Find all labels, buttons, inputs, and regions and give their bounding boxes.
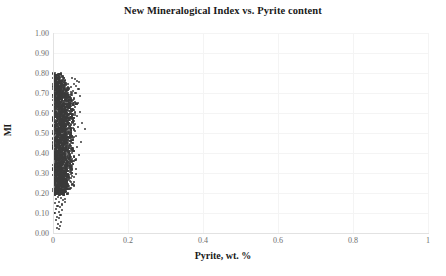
scatter-point xyxy=(70,156,72,158)
scatter-point xyxy=(58,194,60,196)
x-tick-label: 1 xyxy=(408,236,446,245)
scatter-point xyxy=(75,135,77,137)
scatter-point xyxy=(64,170,66,172)
scatter-point xyxy=(77,88,79,90)
scatter-point xyxy=(58,211,60,213)
scatter-point xyxy=(84,128,86,130)
scatter-point xyxy=(76,146,78,148)
y-tick-label: 0.20 xyxy=(3,189,49,198)
scatter-point xyxy=(74,130,76,132)
scatter-point xyxy=(71,152,73,154)
y-tick-label: 0.90 xyxy=(3,49,49,58)
scatter-point xyxy=(54,202,56,204)
scatter-point xyxy=(67,184,69,186)
y-axis-line xyxy=(53,33,54,234)
scatter-point xyxy=(65,147,67,149)
chart-title: New Mineralogical Index vs. Pyrite conte… xyxy=(0,5,446,16)
scatter-point xyxy=(75,168,77,170)
scatter-point xyxy=(59,206,61,208)
scatter-point xyxy=(73,184,75,186)
scatter-point xyxy=(78,154,80,156)
scatter-point xyxy=(65,163,67,165)
scatter-point xyxy=(74,123,76,125)
scatter-points-layer xyxy=(53,33,428,233)
scatter-point xyxy=(69,116,71,118)
scatter-point xyxy=(73,128,75,130)
scatter-point xyxy=(74,92,76,94)
scatter-point xyxy=(69,104,71,106)
scatter-point xyxy=(81,122,83,124)
x-tick-label: 0.4 xyxy=(183,236,223,245)
scatter-point xyxy=(61,209,63,211)
scatter-point xyxy=(78,81,80,83)
scatter-point xyxy=(71,94,73,96)
scatter-point xyxy=(59,214,61,216)
scatter-point xyxy=(73,136,75,138)
scatter-chart-figure: New Mineralogical Index vs. Pyrite conte… xyxy=(0,0,446,276)
scatter-point xyxy=(73,176,75,178)
scatter-point xyxy=(71,168,73,170)
scatter-point xyxy=(75,85,77,87)
x-axis-line xyxy=(53,233,429,234)
scatter-point xyxy=(67,83,69,85)
scatter-point xyxy=(69,136,71,138)
scatter-point xyxy=(79,111,81,113)
scatter-point xyxy=(55,219,57,221)
scatter-point xyxy=(64,99,66,101)
y-tick-label: 0.10 xyxy=(3,209,49,218)
scatter-point xyxy=(66,174,68,176)
scatter-point xyxy=(61,204,63,206)
scatter-point xyxy=(80,141,82,143)
plot-area xyxy=(53,33,428,233)
x-tick-label: 0 xyxy=(33,236,73,245)
scatter-point xyxy=(76,103,78,105)
scatter-point xyxy=(75,158,77,160)
scatter-point xyxy=(55,208,57,210)
scatter-point xyxy=(59,225,61,227)
x-axis-label: Pyrite, wt. % xyxy=(0,250,446,261)
scatter-point xyxy=(58,228,60,230)
scatter-point xyxy=(60,221,62,223)
scatter-point xyxy=(74,106,76,108)
scatter-point xyxy=(72,160,74,162)
scatter-point xyxy=(70,86,72,88)
scatter-point xyxy=(58,217,60,219)
gridline-vertical xyxy=(428,33,429,233)
scatter-point xyxy=(75,173,77,175)
x-tick-label: 0.6 xyxy=(258,236,298,245)
x-tick-label: 0.8 xyxy=(333,236,373,245)
scatter-point xyxy=(71,77,73,79)
scatter-point xyxy=(55,198,57,200)
scatter-point xyxy=(64,198,66,200)
y-tick-label: 1.00 xyxy=(3,29,49,38)
scatter-point xyxy=(58,201,60,203)
y-tick-label: 0.80 xyxy=(3,69,49,78)
y-axis-label: MI xyxy=(3,110,13,150)
scatter-point xyxy=(79,95,81,97)
scatter-point xyxy=(64,201,66,203)
scatter-point xyxy=(71,121,73,123)
y-tick-label: 0.30 xyxy=(3,169,49,178)
scatter-point xyxy=(77,126,79,128)
scatter-point xyxy=(66,180,68,182)
x-tick-label: 0.2 xyxy=(108,236,148,245)
y-tick-label: 0.70 xyxy=(3,89,49,98)
scatter-point xyxy=(68,188,70,190)
scatter-point xyxy=(70,128,72,130)
